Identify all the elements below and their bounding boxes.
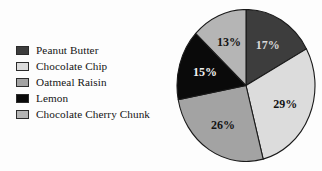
legend-item[interactable]: Peanut Butter: [16, 42, 166, 58]
legend-swatch-chocolate-cherry-chunk: [16, 110, 29, 119]
legend-item[interactable]: Lemon: [16, 90, 166, 106]
legend-label: Lemon: [36, 90, 68, 106]
pie-chart: 17%29%26%15%13%: [176, 9, 316, 162]
pie-slice-label: 15%: [193, 65, 217, 79]
pie-slice-label: 13%: [217, 35, 241, 49]
pie-slice-label: 26%: [211, 118, 235, 132]
legend-swatch-peanut-butter: [16, 46, 29, 55]
pie-slice-label: 17%: [256, 38, 280, 52]
legend-item[interactable]: Chocolate Chip: [16, 58, 166, 74]
chart-screenshot: Peanut Butter Chocolate Chip Oatmeal Rai…: [0, 0, 322, 171]
pie-slice-label: 29%: [273, 97, 297, 111]
legend-label: Chocolate Chip: [36, 58, 107, 74]
legend-label: Oatmeal Raisin: [36, 74, 107, 90]
pie-chart-svg: 17%29%26%15%13%: [176, 9, 316, 162]
legend-item[interactable]: Chocolate Cherry Chunk: [16, 106, 166, 122]
pie-slice-layer: [177, 10, 315, 162]
legend-swatch-oatmeal-raisin: [16, 78, 29, 87]
legend-swatch-chocolate-chip: [16, 62, 29, 71]
legend-swatch-lemon: [16, 94, 29, 103]
legend-label: Peanut Butter: [36, 42, 99, 58]
legend-item[interactable]: Oatmeal Raisin: [16, 74, 166, 90]
chart-legend: Peanut Butter Chocolate Chip Oatmeal Rai…: [16, 42, 166, 122]
legend-label: Chocolate Cherry Chunk: [36, 106, 150, 122]
